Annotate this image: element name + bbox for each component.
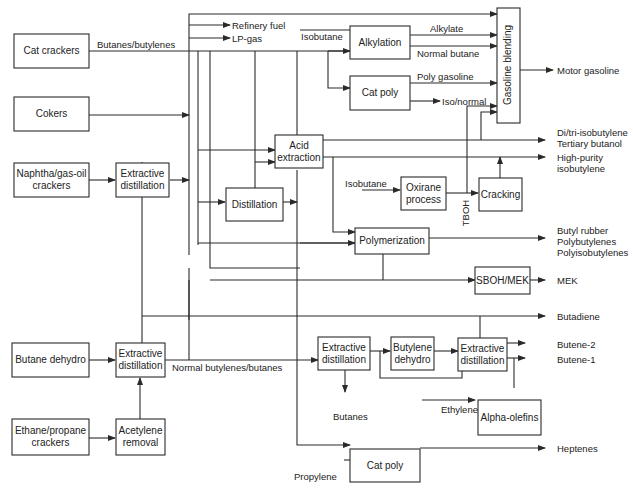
- box-polymerization: Polymerization: [355, 228, 429, 254]
- label-normal-butylenes-butanes: Normal butylenes/butanes: [172, 362, 282, 373]
- label-propylene: Propylene: [294, 471, 337, 482]
- box-acid-extraction: Acid extraction: [275, 135, 323, 168]
- box-cat-poly-bottom: Cat poly: [350, 449, 420, 482]
- box-extractive-distillation-4: Extractive distillation: [458, 338, 507, 371]
- box-alpha-olefins: Alpha-olefins: [478, 400, 541, 435]
- box-extractive-distillation-1: Extractive distillation: [116, 163, 169, 197]
- label-lp-gas: LP-gas: [232, 33, 262, 44]
- label-butanes-butylenes: Butanes/butylenes: [97, 39, 175, 50]
- box-alkylation: Alkylation: [350, 26, 410, 59]
- box-gasoline-blending: Gasoline blending: [502, 8, 516, 123]
- label-iso-normal: Iso/normal: [442, 96, 486, 107]
- box-oxirane-process: Oxirane process: [401, 177, 446, 210]
- label-alkylate: Alkylate: [430, 23, 463, 34]
- label-isobutane-mid: Isobutane: [345, 178, 387, 189]
- box-extractive-distillation-3: Extractive distillation: [318, 337, 370, 370]
- output-high-purity-isobutylene: High-purity isobutylene: [557, 152, 605, 174]
- box-cat-poly-top: Cat poly: [350, 76, 410, 110]
- label-ethylene: Ethylene: [441, 404, 478, 415]
- output-di-tri-isobutylene: Di/tri-isobutylene Tertiary butanol: [557, 127, 628, 149]
- output-motor-gasoline: Motor gasoline: [557, 65, 619, 76]
- output-butyl-rubber: Butyl rubber Polybutylenes Polyisobutyle…: [557, 225, 628, 258]
- output-butene-2: Butene-2: [557, 339, 596, 350]
- label-normal-butane: Normal butane: [417, 48, 479, 59]
- box-naphtha-gas-oil-crackers: Naphtha/gas-oil crackers: [14, 163, 89, 197]
- box-sboh-mek: SBOH/MEK: [475, 267, 530, 294]
- label-refinery-fuel: Refinery fuel: [232, 20, 285, 31]
- label-poly-gasoline: Poly gasoline: [417, 71, 474, 82]
- output-butene-1: Butene-1: [557, 354, 596, 365]
- output-mek: MEK: [557, 275, 578, 286]
- box-cracking: Cracking: [479, 178, 522, 211]
- label-tboh: TBOH: [460, 198, 472, 228]
- box-butane-dehydro: Butane dehydro: [12, 343, 89, 377]
- box-acetylene-removal: Acetylene removal: [116, 419, 165, 455]
- box-distillation: Distillation: [226, 188, 283, 221]
- box-cat-crackers: Cat crackers: [14, 34, 89, 68]
- box-ethane-propane-crackers: Ethane/propane crackers: [12, 419, 89, 455]
- output-butadiene: Butadiene: [557, 311, 600, 322]
- label-butanes-out: Butanes: [333, 411, 368, 422]
- box-cokers: Cokers: [14, 97, 89, 131]
- box-extractive-distillation-2: Extractive distillation: [116, 343, 165, 377]
- box-butylene-dehydro: Butylene dehydro: [391, 337, 434, 370]
- output-heptenes: Heptenes: [557, 443, 598, 454]
- label-isobutane-top: Isobutane: [301, 31, 343, 42]
